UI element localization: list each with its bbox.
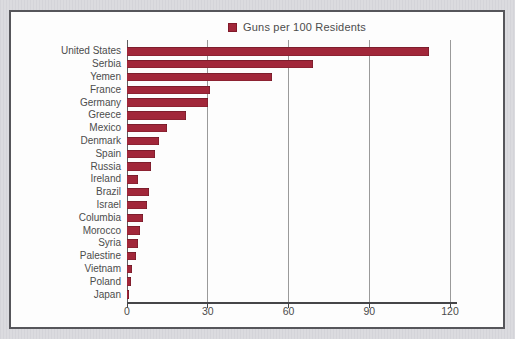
x-tick-label: 60 <box>283 306 295 317</box>
bar-row: Syria <box>11 237 457 250</box>
bar-label: Mexico <box>11 123 127 133</box>
bar <box>127 111 186 120</box>
bar <box>127 201 147 210</box>
bar-row: Serbia <box>11 58 457 71</box>
legend-swatch-icon <box>228 23 237 32</box>
bar-label: Israel <box>11 200 127 210</box>
legend-label: Guns per 100 Residents <box>243 21 366 33</box>
bar-row: Russia <box>11 160 457 173</box>
bar <box>127 137 159 146</box>
x-tick-label: 90 <box>363 306 375 317</box>
bar-row: Greece <box>11 109 457 122</box>
bar-label: Ireland <box>11 174 127 184</box>
bar <box>127 239 138 248</box>
bar <box>127 188 149 197</box>
bar-row: Mexico <box>11 122 457 135</box>
bar-row: Yemen <box>11 71 457 84</box>
bar <box>127 47 429 56</box>
x-tick-label: 0 <box>124 306 130 317</box>
bar-row: Germany <box>11 96 457 109</box>
bar-label: Brazil <box>11 187 127 197</box>
bar-row: France <box>11 83 457 96</box>
bar-row: Denmark <box>11 135 457 148</box>
legend: Guns per 100 Residents <box>228 21 366 33</box>
bar-label: Yemen <box>11 72 127 82</box>
bar <box>127 265 132 274</box>
bar <box>127 98 208 107</box>
bar <box>127 86 210 95</box>
bar-label: Japan <box>11 290 127 300</box>
bar-label: United States <box>11 46 127 56</box>
bar-row: Palestine <box>11 250 457 263</box>
bar-label: Germany <box>11 98 127 108</box>
bar <box>127 226 140 235</box>
page-background: { "colors": { "page_background": "#d8d8d… <box>0 0 515 339</box>
x-tick-label: 30 <box>202 306 214 317</box>
bar-label: Vietnam <box>11 264 127 274</box>
bar <box>127 73 272 82</box>
bar-rows: United StatesSerbiaYemenFranceGermanyGre… <box>11 45 457 301</box>
bar-label: Syria <box>11 238 127 248</box>
bar <box>127 277 131 286</box>
bar-row: Spain <box>11 147 457 160</box>
bar-row: Vietnam <box>11 263 457 276</box>
bar-label: Palestine <box>11 251 127 261</box>
bar-label: Morocco <box>11 226 127 236</box>
bar-row: Brazil <box>11 186 457 199</box>
bar-row: Columbia <box>11 211 457 224</box>
bar-row: Japan <box>11 288 457 301</box>
bar-label: Denmark <box>11 136 127 146</box>
bar-row: Israel <box>11 199 457 212</box>
bar <box>127 60 313 69</box>
bar <box>127 150 155 159</box>
bar-label: Greece <box>11 110 127 120</box>
bar-label: Poland <box>11 277 127 287</box>
bar-row: Morocco <box>11 224 457 237</box>
chart-frame: Guns per 100 Residents United StatesSerb… <box>9 10 505 329</box>
bar-label: Serbia <box>11 59 127 69</box>
bar-label: France <box>11 85 127 95</box>
bar-label: Spain <box>11 149 127 159</box>
bar <box>127 162 151 171</box>
bar <box>127 175 138 184</box>
bar <box>127 290 129 299</box>
bar-row: Ireland <box>11 173 457 186</box>
bar-row: United States <box>11 45 457 58</box>
bar-row: Poland <box>11 275 457 288</box>
bar <box>127 252 136 261</box>
x-axis-tick-labels: 0306090120 <box>127 306 457 319</box>
bar <box>127 124 167 133</box>
bar-label: Russia <box>11 162 127 172</box>
bar-label: Columbia <box>11 213 127 223</box>
x-tick-label: 120 <box>441 306 459 317</box>
bar <box>127 214 143 223</box>
